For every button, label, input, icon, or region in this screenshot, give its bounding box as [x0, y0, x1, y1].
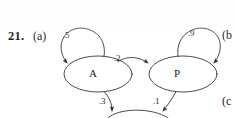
edge-label-self-loop-a: .5	[63, 30, 69, 40]
edge-a-to-p	[118, 57, 148, 63]
node-label-p: P	[174, 67, 180, 79]
part-label-a: (a)	[33, 29, 46, 44]
edge-label-a-to-p: .2	[114, 53, 120, 63]
figure-canvas: 21. (a) (b (c A P .5 .2 .9 .3 .1	[0, 0, 235, 118]
edge-label-p-to-below: .1	[153, 96, 159, 106]
node-p-ellipse	[149, 56, 217, 92]
part-label-c: (c	[222, 94, 231, 109]
problem-number: 21.	[8, 29, 24, 44]
node-a-ellipse	[64, 56, 132, 92]
part-label-b: (b	[222, 28, 232, 43]
offscreen-node-arc	[108, 110, 168, 118]
edge-label-a-to-below: .3	[99, 96, 105, 106]
edge-label-self-loop-p: .9	[188, 28, 194, 38]
edge-p-to-below	[163, 92, 176, 112]
node-label-a: A	[89, 67, 97, 79]
